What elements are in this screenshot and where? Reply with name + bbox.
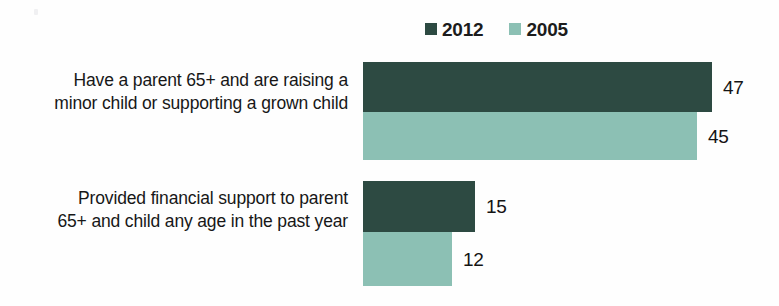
bar-value-label: 45	[708, 127, 729, 146]
chart-container: 2012 2005 Have a parent 65+ and are rais…	[0, 0, 779, 306]
bar-value-label: 15	[486, 197, 507, 216]
bar-row: 45	[363, 112, 729, 160]
bar-row: 12	[363, 232, 484, 286]
bar-2012[interactable]	[363, 62, 712, 112]
bar-row: 15	[363, 181, 507, 232]
bar-group: Provided financial support to parent 65+…	[0, 181, 779, 286]
bar-2005[interactable]	[363, 232, 452, 286]
plot-area: Have a parent 65+ and are raising a mino…	[0, 0, 779, 306]
bar-value-label: 12	[463, 250, 484, 269]
category-label: Provided financial support to parent 65+…	[48, 187, 348, 234]
bar-2012[interactable]	[363, 181, 475, 232]
bar-value-label: 47	[723, 78, 744, 97]
category-label: Have a parent 65+ and are raising a mino…	[48, 69, 348, 116]
bar-group: Have a parent 65+ and are raising a mino…	[0, 62, 779, 160]
bar-2005[interactable]	[363, 112, 697, 160]
bar-row: 47	[363, 62, 744, 112]
